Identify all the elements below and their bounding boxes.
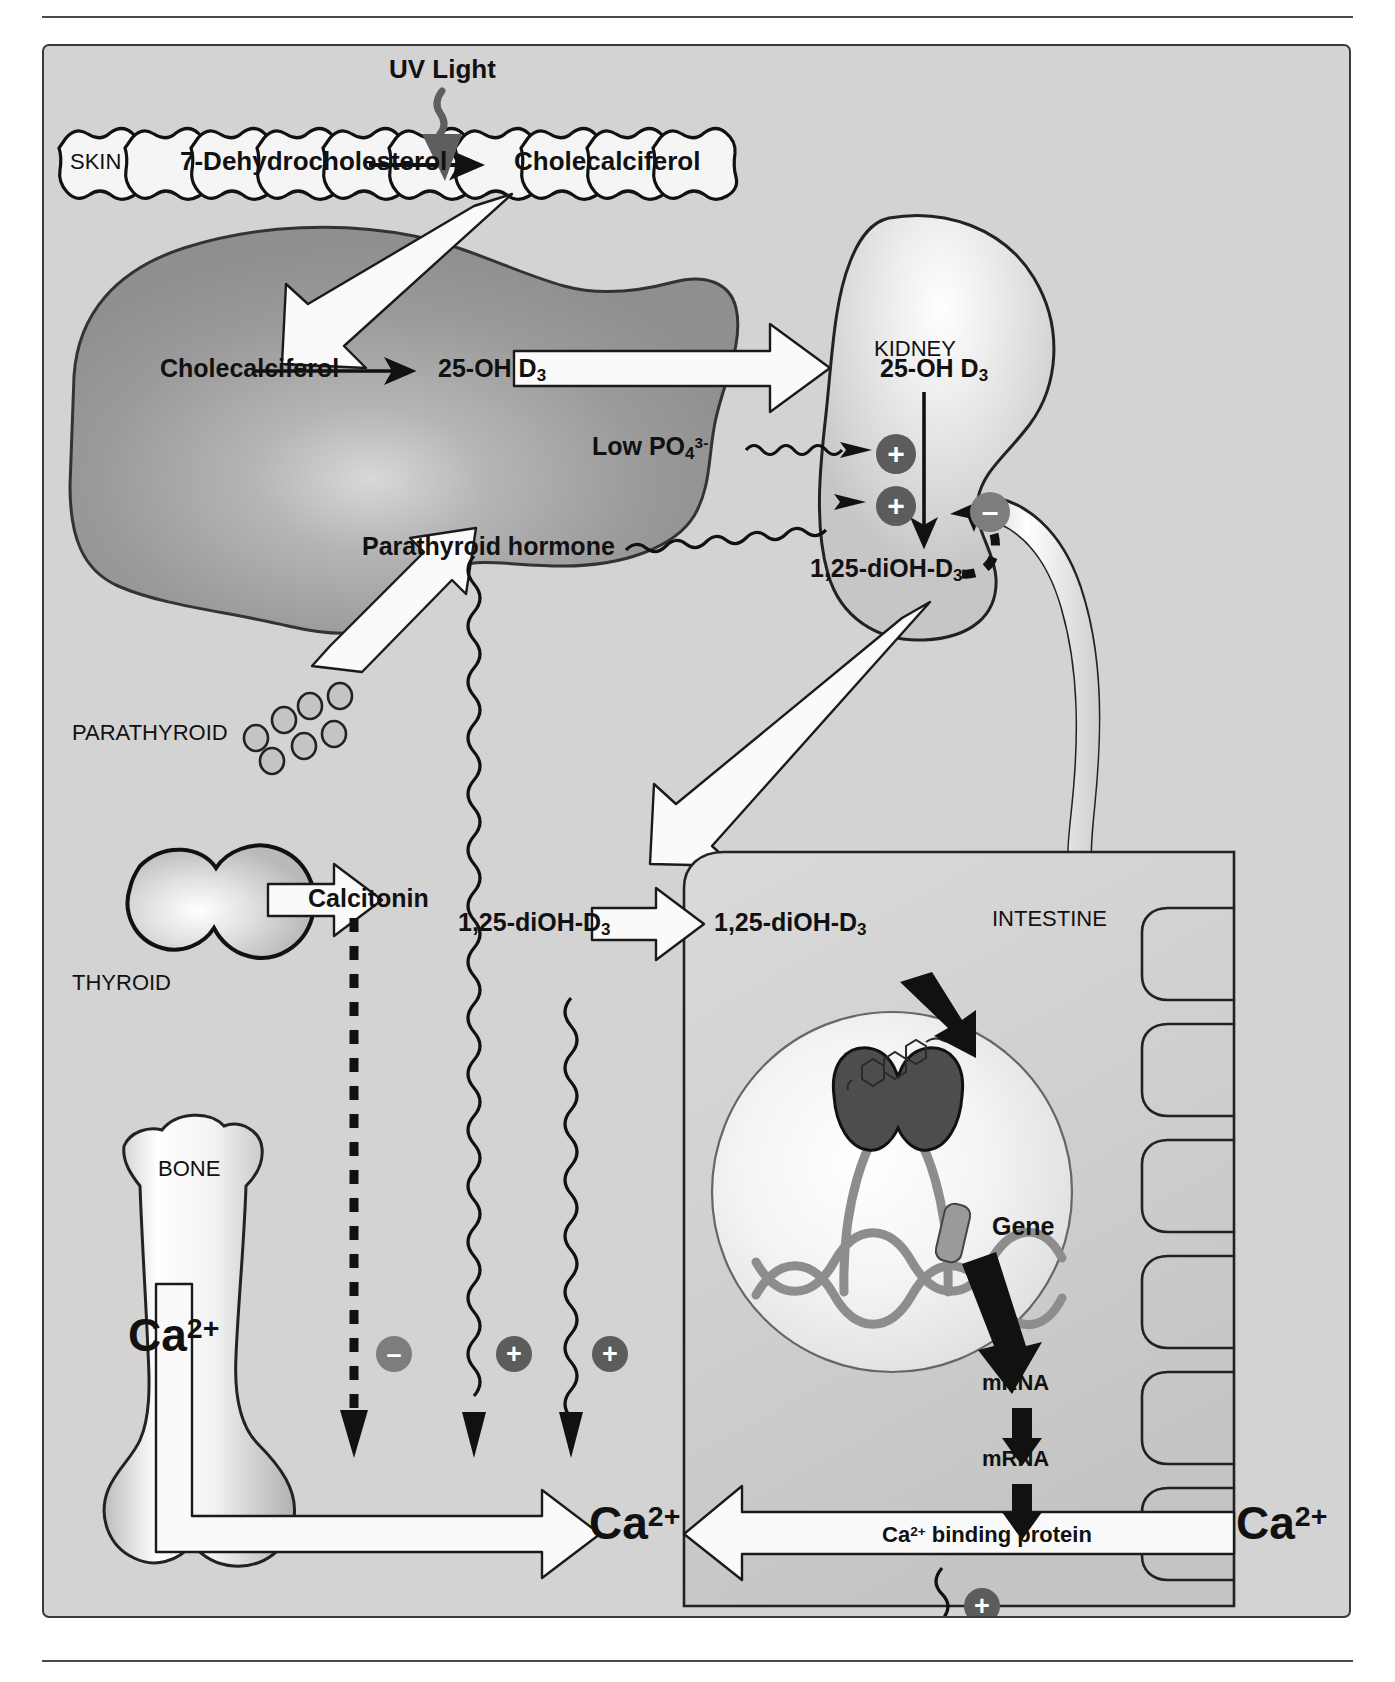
thyroid-label: THYROID xyxy=(72,972,171,994)
skin-label: SKIN xyxy=(70,151,121,173)
ca-center-label: Ca2+ xyxy=(589,1500,680,1546)
diOH-kidney-label: 1,25-diOH-D3 xyxy=(810,556,963,584)
diOH-intestine-label: 1,25-diOH-D3 xyxy=(714,910,867,938)
cholecalciferol-skin-label: Cholecalciferol xyxy=(514,148,700,174)
uv-light-label: UV Light xyxy=(389,56,496,82)
parathyroid-label: PARATHYROID xyxy=(72,722,228,744)
kidney-plus-po4-sign: + xyxy=(876,434,916,474)
kidney-minus-feedback-sign: – xyxy=(970,492,1010,532)
calcitonin-label: Calcitonin xyxy=(308,886,429,911)
ca-right-label: Ca2+ xyxy=(1236,1500,1327,1546)
ca-bone-label: Ca2+ xyxy=(128,1312,219,1358)
kidney-organ xyxy=(819,216,1098,871)
ca-binding-protein-label: Ca2+ binding protein xyxy=(882,1524,1092,1546)
diagram-page: UV Light SKIN 7-Dehydrocholesterol Chole… xyxy=(0,0,1395,1682)
dehydrocholesterol-label: 7-Dehydrocholesterol xyxy=(180,148,447,174)
gene-label: Gene xyxy=(992,1214,1055,1239)
top-rule xyxy=(42,16,1353,18)
kidney-to-intestine-arrow xyxy=(650,602,930,866)
kidney-plus-pth-sign: + xyxy=(876,486,916,526)
ca-binding-plus-sign: + xyxy=(964,1588,1000,1618)
diOH-plus-sign: + xyxy=(592,1336,628,1372)
diagram-panel: UV Light SKIN 7-Dehydrocholesterol Chole… xyxy=(42,44,1351,1618)
diOH-mid-label: 1,25-diOH-D3 xyxy=(458,910,611,938)
bottom-rule xyxy=(42,1660,1353,1662)
calcitonin-signal-line xyxy=(340,918,368,1458)
calcitonin-minus-sign: – xyxy=(376,1336,412,1372)
parathyroid-organ xyxy=(244,683,352,774)
intestine-label: INTESTINE xyxy=(992,908,1107,930)
pth-plus-sign: + xyxy=(496,1336,532,1372)
mrna-nucleus-label: mRNA xyxy=(982,1372,1049,1394)
diagram-graphics xyxy=(44,46,1349,1616)
oh-d3-kidney-label: 25-OH D3 xyxy=(880,356,988,384)
mrna-cytoplasm-label: mRNA xyxy=(982,1448,1049,1470)
diOH-signal-line xyxy=(559,998,583,1458)
bone-label: BONE xyxy=(158,1158,220,1180)
pth-signal-line xyxy=(462,556,486,1458)
low-po4-label: Low PO43- xyxy=(592,434,708,462)
parathyroid-hormone-label: Parathyroid hormone xyxy=(362,534,615,559)
cholecalciferol-liver-label: Cholecalciferol xyxy=(160,356,339,381)
oh-d3-liver-label: 25-OH D3 xyxy=(438,356,546,384)
